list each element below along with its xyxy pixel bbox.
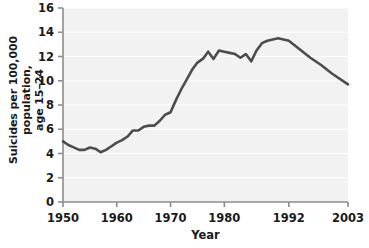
y-tick-label: 6 xyxy=(46,122,54,136)
x-tick-label: 1992 xyxy=(273,211,305,225)
x-axis-label: Year xyxy=(63,228,348,242)
y-tick-label: 2 xyxy=(46,171,54,185)
y-axis-ticks: 0246810121416 xyxy=(38,1,63,209)
y-tick-label: 4 xyxy=(46,147,54,161)
y-tick-label: 0 xyxy=(46,195,54,209)
x-axis-ticks: 195019601970198019922003 xyxy=(47,202,364,225)
x-tick-label: 1970 xyxy=(155,211,187,225)
chart-canvas: 0246810121416 195019601970198019922003 xyxy=(0,0,369,248)
x-tick-label: 1950 xyxy=(47,211,79,225)
y-tick-label: 16 xyxy=(38,1,54,15)
x-tick-label: 2003 xyxy=(332,211,364,225)
y-tick-label: 12 xyxy=(38,50,54,64)
y-tick-label: 10 xyxy=(38,74,54,88)
y-tick-label: 14 xyxy=(38,25,54,39)
x-tick-label: 1960 xyxy=(101,211,133,225)
suicide-rate-line-chart: Suicides per 100,000 population, age 15–… xyxy=(0,0,369,248)
x-tick-label: 1980 xyxy=(208,211,240,225)
y-tick-label: 8 xyxy=(46,98,54,112)
